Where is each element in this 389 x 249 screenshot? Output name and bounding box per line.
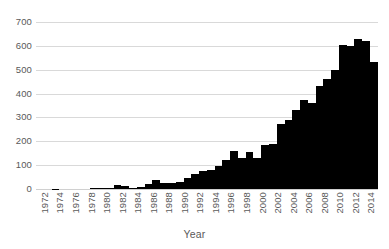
bar: [176, 182, 184, 189]
bar: [222, 160, 230, 189]
bar: [261, 145, 269, 189]
bar: [215, 166, 223, 189]
bar: [316, 86, 324, 189]
y-axis: 0100200300400500600700: [0, 0, 36, 249]
bar: [354, 39, 362, 189]
x-tick-label-1982: 1982: [118, 192, 128, 214]
bar: [300, 100, 308, 189]
bar: [285, 120, 293, 189]
y-tick-label-400: 400: [16, 89, 32, 99]
x-tick-label-1992: 1992: [195, 192, 205, 214]
y-tick-label-0: 0: [27, 184, 32, 194]
bar: [191, 174, 199, 189]
bar: [362, 41, 370, 189]
bar: [370, 62, 378, 189]
x-axis-title: Year: [0, 228, 389, 240]
bar: [207, 170, 215, 189]
bar: [253, 158, 261, 189]
x-tick-label-1972: 1972: [40, 192, 50, 214]
x-tick-label-1994: 1994: [211, 192, 221, 214]
y-tick-label-300: 300: [16, 113, 32, 123]
x-tick-label-1990: 1990: [180, 192, 190, 214]
x-tick-label-1996: 1996: [226, 192, 236, 214]
bar: [246, 152, 254, 189]
x-tick-label-2012: 2012: [351, 192, 361, 214]
bar: [277, 124, 285, 189]
bar: [331, 70, 339, 189]
bar: [199, 171, 207, 189]
bar: [152, 180, 160, 189]
x-tick-label-2006: 2006: [304, 192, 314, 214]
x-tick-label-1986: 1986: [149, 192, 159, 214]
y-tick-label-500: 500: [16, 65, 32, 75]
x-tick-label-1978: 1978: [87, 192, 97, 214]
bar: [184, 178, 192, 189]
x-tick-label-2002: 2002: [273, 192, 283, 214]
bar: [308, 103, 316, 189]
x-tick-label-2004: 2004: [289, 192, 299, 214]
y-tick-label-600: 600: [16, 41, 32, 51]
bar: [269, 144, 277, 189]
bar: [339, 45, 347, 189]
x-tick-label-1974: 1974: [55, 192, 65, 214]
x-tick-label-1988: 1988: [164, 192, 174, 214]
x-tick-label-2014: 2014: [366, 192, 376, 214]
x-tick-label-1998: 1998: [242, 192, 252, 214]
x-tick-label-1984: 1984: [133, 192, 143, 214]
bar-series: [36, 22, 378, 189]
y-tick-label-100: 100: [16, 160, 32, 170]
x-tick-label-1980: 1980: [102, 192, 112, 214]
x-tick-label-1976: 1976: [71, 192, 81, 214]
bar: [347, 46, 355, 189]
bar: [230, 151, 238, 189]
x-tick-label-2000: 2000: [258, 192, 268, 214]
x-tick-label-2010: 2010: [335, 192, 345, 214]
plot-area: [36, 22, 378, 189]
bar: [292, 110, 300, 189]
bar: [238, 158, 246, 189]
y-tick-label-200: 200: [16, 137, 32, 147]
bar-chart: 0100200300400500600700 19721974197619781…: [0, 0, 389, 249]
x-axis: 1972197419761978198019821984198619881990…: [36, 189, 378, 233]
x-tick-label-2008: 2008: [320, 192, 330, 214]
y-tick-label-700: 700: [16, 17, 32, 27]
bar: [323, 79, 331, 189]
